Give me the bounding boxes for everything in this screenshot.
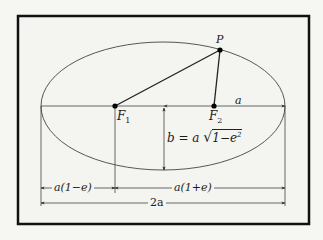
- label-perihelion-text: a(1−e): [54, 181, 92, 194]
- label-semi-minor-exp: 2: [237, 131, 241, 139]
- sqrt-icon: √: [203, 129, 212, 145]
- label-perihelion: a(1−e): [52, 182, 94, 193]
- label-semi-major: a: [235, 95, 242, 106]
- label-major-axis: 2a: [148, 197, 166, 208]
- label-point-p: P: [216, 34, 223, 45]
- point-p: [217, 47, 222, 52]
- label-major-axis-text: 2a: [150, 196, 164, 209]
- focus2-point: [211, 103, 216, 108]
- label-aphelion: a(1+e): [172, 182, 214, 193]
- label-focus1-sub: 1: [125, 116, 130, 125]
- label-semi-minor: b = a √1−e2: [167, 130, 242, 144]
- label-focus2-sub: 2: [217, 116, 222, 125]
- label-semi-minor-radicand: 1−e: [212, 131, 237, 145]
- label-aphelion-text: a(1+e): [174, 181, 212, 194]
- label-semi-major-text: a: [235, 94, 242, 107]
- focus1-point: [112, 103, 117, 108]
- label-point-p-text: P: [216, 33, 223, 46]
- label-focus2: F2: [209, 110, 222, 122]
- label-semi-minor-lhs: b = a: [167, 131, 203, 145]
- label-semi-minor-radicand-wrap: 1−e2: [212, 129, 241, 145]
- label-focus1: F1: [117, 110, 130, 122]
